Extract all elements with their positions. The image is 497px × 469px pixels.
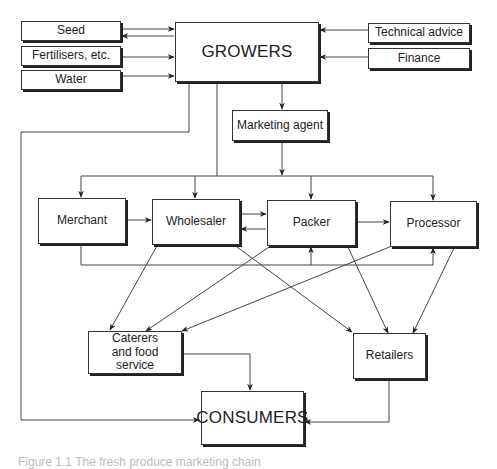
- technical-advice-label: Technical advice: [375, 26, 463, 40]
- growers-box: GROWERS: [175, 22, 319, 82]
- input-box-fertilisers: Fertilisers, etc.: [21, 46, 121, 66]
- retailers-box: Retailers: [353, 333, 426, 379]
- consumers-label: CONSUMERS: [196, 408, 308, 428]
- input-box-seed: Seed: [21, 21, 121, 41]
- merchant-box: Merchant: [38, 198, 126, 244]
- caterers-label-line1: Caterers: [112, 332, 158, 346]
- packer-label: Packer: [293, 216, 330, 230]
- processor-label: Processor: [406, 217, 460, 231]
- support-box-finance: Finance: [368, 48, 470, 69]
- packer-box: Packer: [267, 200, 356, 246]
- growers-label: GROWERS: [201, 42, 292, 62]
- caterers-label-line2: and food: [112, 346, 159, 360]
- fertilisers-label: Fertilisers, etc.: [32, 49, 110, 63]
- consumers-box: CONSUMERS: [201, 391, 304, 445]
- input-box-water: Water: [21, 70, 121, 90]
- finance-label: Finance: [398, 52, 441, 66]
- figure-caption: Figure 1.1 The fresh produce marketing c…: [18, 455, 261, 469]
- merchant-label: Merchant: [57, 214, 107, 228]
- wholesaler-label: Wholesaler: [166, 215, 226, 229]
- support-box-technical-advice: Technical advice: [368, 23, 470, 43]
- caterers-label-line3: service: [116, 359, 154, 373]
- processor-box: Processor: [390, 201, 477, 247]
- caterers-box: Caterers and food service: [88, 331, 182, 374]
- marketing-agent-label: Marketing agent: [237, 119, 323, 133]
- retailers-label: Retailers: [366, 349, 413, 363]
- wholesaler-box: Wholesaler: [152, 199, 240, 245]
- seed-label: Seed: [57, 24, 85, 38]
- water-label: Water: [55, 73, 87, 87]
- marketing-agent-box: Marketing agent: [232, 110, 328, 141]
